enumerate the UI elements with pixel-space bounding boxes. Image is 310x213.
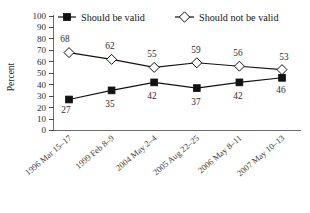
y-axis: 100 90 80 70 60 50 40 30 20 10 0 Percent: [6, 11, 54, 135]
y-tick-label: 40: [37, 80, 47, 90]
data-point: [151, 79, 158, 86]
data-point: [149, 62, 159, 72]
y-tick-label: 0: [42, 125, 47, 135]
y-tick-label: 70: [37, 45, 47, 55]
x-tick-label: 2004 May 2–4: [114, 132, 159, 172]
y-tick-label: 30: [37, 91, 47, 101]
y-tick-label: 10: [37, 114, 47, 124]
filled-square-icon: [64, 14, 71, 21]
series-line-lower: [69, 78, 282, 100]
data-point: [277, 65, 287, 75]
data-label: 42: [147, 91, 157, 101]
data-label: 62: [105, 41, 115, 51]
data-label: 68: [60, 34, 70, 44]
data-point: [192, 58, 202, 68]
series-should-not-be-valid: 68 62 55 59 56 53: [60, 34, 289, 75]
line-chart: Should be valid Should not be valid 100 …: [0, 0, 310, 213]
data-label: 37: [191, 97, 201, 107]
y-axis-title: Percent: [6, 62, 16, 91]
data-label: 53: [279, 52, 289, 62]
chart-container: Should be valid Should not be valid 100 …: [0, 0, 310, 213]
series-should-be-valid: 27 35 42 37 42 46: [61, 74, 286, 115]
data-point: [279, 74, 286, 81]
x-tick-label: 1996 Mar 15–17: [23, 132, 74, 177]
y-tick-label: 60: [37, 57, 47, 67]
legend-label-1: Should not be valid: [199, 12, 279, 23]
x-tick-label: 2005 Aug 22–25: [151, 133, 201, 177]
open-diamond-icon: [179, 12, 189, 22]
data-point: [193, 85, 200, 92]
y-tick-label: 50: [37, 68, 47, 78]
data-point: [64, 48, 74, 58]
data-label: 55: [147, 49, 157, 59]
data-label: 27: [61, 105, 71, 115]
data-label: 56: [233, 48, 243, 58]
y-tick-label: 20: [37, 103, 47, 113]
y-tick-label: 90: [37, 22, 47, 32]
series-line-upper: [69, 53, 282, 70]
x-tick-label: 1999 Feb 8–9: [73, 133, 116, 171]
legend-label-0: Should be valid: [81, 12, 145, 23]
data-label: 59: [191, 45, 201, 55]
data-point: [234, 61, 244, 71]
data-label: 42: [233, 91, 243, 101]
data-point: [236, 79, 243, 86]
data-label: 35: [105, 99, 115, 109]
legend: Should be valid Should not be valid: [58, 12, 279, 23]
x-axis: 1996 Mar 15–17 1999 Feb 8–9 2004 May 2–4…: [23, 131, 301, 179]
data-point: [107, 54, 117, 64]
y-tick-label: 80: [37, 34, 47, 44]
data-point: [66, 96, 73, 103]
y-tick-label: 100: [33, 11, 47, 21]
data-label: 46: [276, 85, 286, 95]
data-point: [108, 87, 115, 94]
